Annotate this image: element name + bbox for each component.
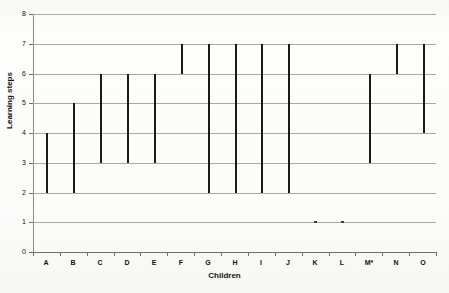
gridline bbox=[33, 193, 436, 194]
x-axis-tick bbox=[194, 252, 195, 256]
x-axis-tick-label: G bbox=[198, 259, 218, 267]
y-axis-tick-label: 0 bbox=[16, 248, 26, 255]
y-axis-tick bbox=[29, 44, 33, 45]
x-axis-tick bbox=[409, 252, 410, 256]
x-axis-line bbox=[33, 252, 436, 253]
range-bar-i bbox=[261, 44, 263, 193]
x-axis-tick-label: I bbox=[251, 259, 271, 267]
x-axis-tick bbox=[248, 252, 249, 256]
y-axis-tick-label: 4 bbox=[16, 129, 26, 136]
x-axis-tick-label: B bbox=[63, 259, 83, 267]
x-axis-tick bbox=[167, 252, 168, 256]
y-axis-tick-label: 1 bbox=[16, 218, 26, 225]
y-axis-tick-label: 2 bbox=[16, 189, 26, 196]
data-point-l bbox=[341, 221, 344, 223]
y-axis-tick bbox=[29, 133, 33, 134]
y-axis-tick-label: 7 bbox=[16, 40, 26, 47]
y-axis-tick bbox=[29, 222, 33, 223]
x-axis-tick-label: K bbox=[305, 259, 325, 267]
x-axis-tick-label: D bbox=[117, 259, 137, 267]
range-bar-chart: 012345678 ABCDEFGHIJKLM*NO Learning step… bbox=[0, 0, 449, 293]
plot-area bbox=[33, 14, 436, 252]
range-bar-g bbox=[208, 44, 210, 193]
x-axis-tick bbox=[140, 252, 141, 256]
y-axis-tick bbox=[29, 14, 33, 15]
range-bar-c bbox=[100, 74, 102, 163]
y-axis-tick bbox=[29, 193, 33, 194]
y-axis-title: Learning steps bbox=[5, 46, 14, 156]
y-axis-tick bbox=[29, 103, 33, 104]
x-axis-tick bbox=[329, 252, 330, 256]
y-axis-tick bbox=[29, 74, 33, 75]
y-axis-tick-label: 5 bbox=[16, 99, 26, 106]
range-bar-n bbox=[396, 44, 398, 74]
y-axis-tick-label: 3 bbox=[16, 159, 26, 166]
x-axis-tick-label: N bbox=[386, 259, 406, 267]
x-axis-tick bbox=[114, 252, 115, 256]
x-axis-tick-label: F bbox=[171, 259, 191, 267]
x-axis-tick-label: O bbox=[413, 259, 433, 267]
x-axis-tick-label: L bbox=[332, 259, 352, 267]
x-axis-tick bbox=[33, 252, 34, 256]
x-axis-tick-label: C bbox=[90, 259, 110, 267]
range-bar-o bbox=[423, 44, 425, 133]
range-bar-d bbox=[127, 74, 129, 163]
range-bar-a bbox=[46, 133, 48, 193]
x-axis-tick-label: M* bbox=[359, 259, 379, 267]
range-bar-f bbox=[181, 44, 183, 74]
x-axis-tick-label: E bbox=[144, 259, 164, 267]
y-axis-tick bbox=[29, 163, 33, 164]
y-axis-tick-label: 6 bbox=[16, 70, 26, 77]
x-axis-tick bbox=[436, 252, 437, 256]
x-axis-tick-label: H bbox=[225, 259, 245, 267]
gridline bbox=[33, 14, 436, 15]
x-axis-tick bbox=[355, 252, 356, 256]
y-axis-tick-label: 8 bbox=[16, 10, 26, 17]
x-axis-tick-label: J bbox=[278, 259, 298, 267]
range-bar-mstar bbox=[369, 74, 371, 163]
range-bar-b bbox=[73, 103, 75, 192]
x-axis-tick bbox=[87, 252, 88, 256]
x-axis-tick bbox=[382, 252, 383, 256]
data-point-k bbox=[314, 221, 317, 223]
range-bar-h bbox=[235, 44, 237, 193]
x-axis-title: Children bbox=[0, 271, 449, 280]
x-axis-tick bbox=[221, 252, 222, 256]
x-axis-tick-label: A bbox=[36, 259, 56, 267]
gridline bbox=[33, 222, 436, 223]
range-bar-j bbox=[288, 44, 290, 193]
x-axis-tick bbox=[302, 252, 303, 256]
x-axis-tick bbox=[60, 252, 61, 256]
range-bar-e bbox=[154, 74, 156, 163]
x-axis-tick bbox=[275, 252, 276, 256]
